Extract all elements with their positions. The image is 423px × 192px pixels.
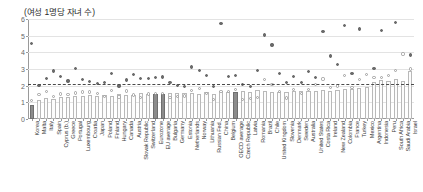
x-axis-tick-label: France [354,121,360,138]
x-axis-tick-mark [32,119,33,121]
x-axis-tick-mark [53,119,54,121]
x-axis-tick-mark [374,119,375,121]
x-axis-tick-mark [287,119,288,121]
x-axis-tick-mark [148,119,149,121]
x-axis-tick-label: Cyprus (b.) [63,121,69,148]
x-axis-tick-label: Turkey [361,121,367,137]
reference-line [28,19,414,119]
x-axis-tick-label: Hungary [121,121,127,141]
x-axis-tick-mark [403,119,404,121]
x-axis-tick-label: Ireland [332,121,338,137]
x-axis-tick-label: Romania [260,121,266,143]
x-axis-tick-label: Peru [391,121,397,132]
x-axis-tick-label: Australia [310,121,316,142]
x-axis-tick-label: United States [318,121,324,153]
x-axis-tick-mark [192,119,193,121]
x-axis-tick-mark [345,119,346,121]
x-axis-tick-mark [236,119,237,121]
x-axis-tick-label: Norway [201,121,207,139]
x-axis-tick-mark [257,119,258,121]
y-axis-tick-label: 2 [5,82,25,89]
x-axis-tick-mark [396,119,397,121]
x-axis-tick-mark [323,119,324,121]
x-axis-tick-mark [68,119,69,121]
x-axis-tick-label: Brazil [267,121,273,134]
x-axis-tick-label: South Africa [398,121,404,150]
x-axis-tick-mark [389,119,390,121]
x-axis-tick-mark [316,119,317,121]
x-axis-tick-label: Costa Rica [325,121,331,147]
x-axis-tick-mark [141,119,142,121]
x-axis-tick-mark [185,119,186,121]
x-axis-tick-label: Israel [412,121,418,134]
x-axis-tick-mark [163,119,164,121]
x-axis-tick-label: Greece [70,121,76,139]
y-axis-tick-label: 3 [5,66,25,73]
y-axis-tick-label: 0 [5,116,25,123]
x-axis-tick-label: Belgium [230,121,236,141]
x-axis-tick-mark [265,119,266,121]
x-axis-tick-label: Netherlands [194,121,200,150]
x-axis-tick-mark [352,119,353,121]
x-axis-tick-label: Latvia [252,121,258,135]
x-axis-tick-mark [61,119,62,121]
x-axis-tick-mark [294,119,295,121]
x-axis-tick-label: Bulgaria [172,121,178,141]
x-axis-tick-label: Japan [99,121,105,136]
x-axis-tick-label: United Kingdom [281,121,287,159]
x-axis-tick-label: Croatia [92,121,98,138]
x-axis-tick-label: Denmark [296,121,302,143]
x-axis-tick-label: Indonesia [383,121,389,144]
x-axis-tick-label: Germany [179,121,185,143]
x-axis-tick-label: Sweden [303,121,309,141]
x-axis-tick-label: Saudi Arabia [405,121,411,152]
x-axis-tick-label: New Zealand [340,121,346,153]
x-axis-tick-label: Czech Republic [245,121,251,159]
x-axis-tick-label: Estonia [187,121,193,139]
x-axis-tick-label: Colombia [347,121,353,144]
y-axis-tick-label: 4 [5,49,25,56]
x-axis-tick-label: Malta [41,121,47,134]
x-axis-tick-mark [367,119,368,121]
x-axis-tick-label: Spain [56,121,62,135]
x-axis-tick-mark [243,119,244,121]
y-axis-tick-label: 1 [5,99,25,106]
x-axis-tick-mark [83,119,84,121]
x-axis-tick-label: Mexico [369,121,375,138]
x-axis-tick-mark [104,119,105,121]
x-axis-tick-label: Eurozone [158,121,164,144]
x-axis-tick-mark [155,119,156,121]
chart-title: (여성 1명당 자녀 수) [24,5,95,17]
x-axis-tick-label: Austria [136,121,142,138]
x-axis-tick-label: Slovenia [289,121,295,142]
plot-area: 0123456 [28,19,414,119]
x-axis-tick-label: Italy [48,121,54,131]
x-axis-tick-label: Korea [34,121,40,135]
x-axis-tick-mark [338,119,339,121]
x-axis-tick-label: Poland [107,121,113,138]
x-axis-tick-label: Argentina [376,121,382,144]
x-axis-tick-mark [119,119,120,121]
x-axis-tick-label: Russian Fed. [216,121,222,153]
x-axis-labels: KoreaMaltaItalySpainCyprus (b.)GreecePor… [28,121,414,191]
x-axis-tick-mark [199,119,200,121]
x-axis-tick-mark [90,119,91,121]
x-axis-tick-mark [112,119,113,121]
x-axis-tick-mark [214,119,215,121]
x-axis-tick-label: Slovak Republic [143,121,149,160]
x-axis-tick-label: Luxembourg [85,121,91,151]
x-axis-tick-mark [301,119,302,121]
x-axis-tick-mark [250,119,251,121]
x-axis-tick-label: OECD average [238,121,244,158]
x-axis-tick-mark [272,119,273,121]
x-axis-tick-label: EU average [165,121,171,150]
x-axis-tick-label: Portugal [77,121,83,141]
x-axis-tick-label: China [223,121,229,135]
y-axis-tick-label: 5 [5,32,25,39]
y-axis-tick-label: 6 [5,16,25,23]
y-axis-tick-mark [26,119,28,120]
x-axis-tick-label: Canada [128,121,134,140]
x-axis-tick-mark [39,119,40,121]
x-axis-tick-label: Chile [274,121,280,133]
x-axis-tick-label: Switzerland [150,121,156,149]
